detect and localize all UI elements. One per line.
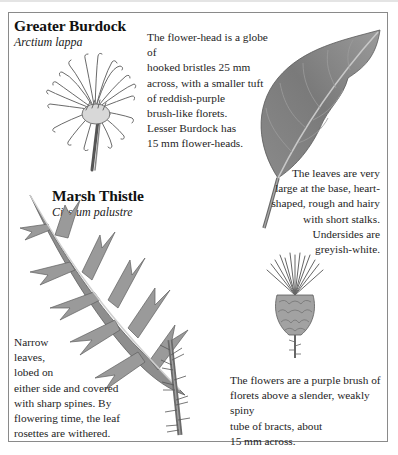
caption-line: florets above a slender, weakly spiny bbox=[230, 388, 385, 418]
thistle-flower-head-illustration bbox=[255, 250, 335, 360]
caption-line: 15 mm across. bbox=[230, 434, 385, 449]
caption-line: flowering time, the leaf bbox=[14, 411, 164, 426]
caption-line: either side and covered bbox=[14, 381, 164, 396]
burdock-flower-head-illustration bbox=[40, 48, 140, 173]
burdock-leaf-caption: The leaves are very large at the base, h… bbox=[250, 166, 380, 257]
caption-line: tube of bracts, about bbox=[230, 419, 385, 434]
caption-line: Narrow bbox=[14, 335, 164, 350]
caption-line: with short stalks. bbox=[250, 212, 380, 227]
caption-line: The flowers are a purple brush of bbox=[230, 373, 385, 388]
thistle-leaf-caption: Narrow leaves, lobed on either side and … bbox=[14, 335, 164, 441]
caption-line: with sharp spines. By bbox=[14, 396, 164, 411]
page-top-rule bbox=[0, 0, 398, 2]
burdock-common-name: Greater Burdock bbox=[14, 17, 126, 34]
thistle-flower-caption: The flowers are a purple brush of floret… bbox=[230, 373, 385, 449]
caption-line: shaped, rough and hairy bbox=[250, 196, 380, 211]
caption-line: Undersides are bbox=[250, 227, 380, 242]
burdock-latin-name: Arctium lappa bbox=[14, 35, 83, 49]
caption-line: lobed on bbox=[14, 365, 164, 380]
caption-line: leaves, bbox=[14, 350, 164, 365]
caption-line: rosettes are withered. bbox=[14, 426, 164, 441]
caption-line: The leaves are very bbox=[250, 166, 380, 181]
caption-line: large at the base, heart- bbox=[250, 181, 380, 196]
